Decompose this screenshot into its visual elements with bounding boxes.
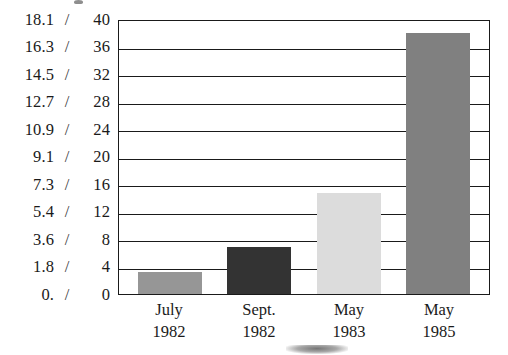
axis-separator-slash: / [54, 67, 80, 84]
x-label-year: 1982 [137, 321, 201, 343]
y-tick-primary-label: 0 [80, 287, 110, 304]
y-tick-primary-label: 28 [80, 94, 110, 111]
y-tick-primary-label: 40 [80, 12, 110, 29]
x-axis-label: July1982 [137, 299, 201, 343]
axis-separator-slash: / [54, 259, 80, 276]
x-label-month: May [317, 299, 381, 321]
y-tick-secondary-label: 9.1 [0, 149, 54, 166]
y-tick-primary-label: 20 [80, 149, 110, 166]
x-label-month: Sept. [227, 299, 291, 321]
x-axis-label: Sept.1982 [227, 299, 291, 343]
axis-separator-slash: / [54, 287, 80, 304]
bar [227, 247, 291, 294]
y-tick-primary-label: 36 [80, 39, 110, 56]
y-tick-primary-label: 4 [80, 259, 110, 276]
x-label-year: 1985 [407, 321, 471, 343]
bar-series [119, 21, 489, 294]
y-tick-secondary-label: 10.9 [0, 122, 54, 139]
x-label-month: May [407, 299, 471, 321]
y-tick-secondary-label: 14.5 [0, 67, 54, 84]
x-label-year: 1983 [317, 321, 381, 343]
x-axis-label: May1983 [317, 299, 381, 343]
bar [138, 272, 202, 294]
x-label-year: 1982 [227, 321, 291, 343]
scan-artifact-bottom [286, 345, 348, 354]
axis-separator-slash: / [54, 12, 80, 29]
y-tick-primary-label: 32 [80, 67, 110, 84]
axis-separator-slash: / [54, 94, 80, 111]
y-tick-primary-label: 12 [80, 204, 110, 221]
plot-area [118, 20, 490, 295]
axis-separator-slash: / [54, 149, 80, 166]
y-tick-secondary-label: 16.3 [0, 39, 54, 56]
y-tick-secondary-label: 5.4 [0, 204, 54, 221]
y-tick-secondary-label: 7.3 [0, 177, 54, 194]
y-tick-secondary-label: 18.1 [0, 12, 54, 29]
x-label-month: July [137, 299, 201, 321]
axis-separator-slash: / [54, 204, 80, 221]
x-axis-label: May1985 [407, 299, 471, 343]
axis-separator-slash: / [54, 177, 80, 194]
y-tick-primary-label: 8 [80, 232, 110, 249]
y-tick-secondary-label: 3.6 [0, 232, 54, 249]
axis-separator-slash: / [54, 232, 80, 249]
y-axis-dual-scale: 18.1/4016.3/3614.5/3212.7/2810.9/249.1/2… [0, 20, 118, 295]
axis-separator-slash: / [54, 122, 80, 139]
y-tick-primary-label: 16 [80, 177, 110, 194]
bar [406, 33, 470, 294]
scan-artifact-top [74, 0, 83, 4]
y-tick-secondary-label: 12.7 [0, 94, 54, 111]
bar [317, 193, 381, 294]
x-axis-labels: July1982Sept.1982May1983May1985 [118, 299, 490, 343]
y-tick-secondary-label: 1.8 [0, 259, 54, 276]
y-tick-secondary-label: 0. [0, 287, 54, 304]
axis-separator-slash: / [54, 39, 80, 56]
y-tick-primary-label: 24 [80, 122, 110, 139]
